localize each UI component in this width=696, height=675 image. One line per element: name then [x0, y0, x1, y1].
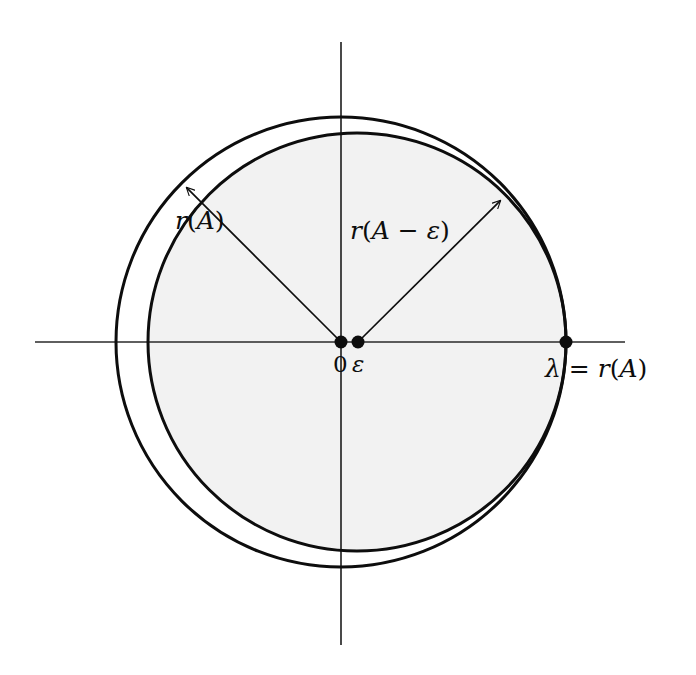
point-origin [335, 336, 348, 349]
label-radius-outer-arg: A [197, 206, 215, 235]
label-epsilon: ε [352, 353, 364, 376]
label-radius-outer: r(A) [175, 208, 225, 233]
point-epsilon [352, 336, 365, 349]
label-lambda-equals: = [561, 354, 598, 383]
label-radius-outer-open: ( [187, 206, 197, 235]
label-radius-inner-open: ( [362, 216, 372, 245]
label-lambda-symbol: λ [545, 354, 561, 383]
label-lambda-close: ) [637, 354, 647, 383]
label-radius-outer-close: ) [215, 206, 225, 235]
label-lambda-arg: A [619, 354, 637, 383]
label-origin: 0 [333, 353, 348, 376]
label-radius-inner-r: r [350, 216, 362, 245]
label-lambda-r: r [598, 354, 610, 383]
label-radius-inner: r(A − ε) [350, 218, 450, 243]
label-radius-inner-close: ) [440, 216, 450, 245]
label-lambda-open: ( [610, 354, 620, 383]
label-radius-inner-arg: A [372, 216, 390, 245]
label-lambda-equals-rA: λ = r(A) [545, 356, 647, 381]
diagram-canvas [0, 0, 696, 675]
label-radius-inner-minus: − [390, 216, 427, 245]
label-radius-outer-r: r [175, 206, 187, 235]
label-radius-inner-eps: ε [427, 216, 440, 245]
point-lambda-tangency [560, 336, 573, 349]
figure-root: r(A) r(A − ε) 0 ε λ = r(A) [0, 0, 696, 675]
